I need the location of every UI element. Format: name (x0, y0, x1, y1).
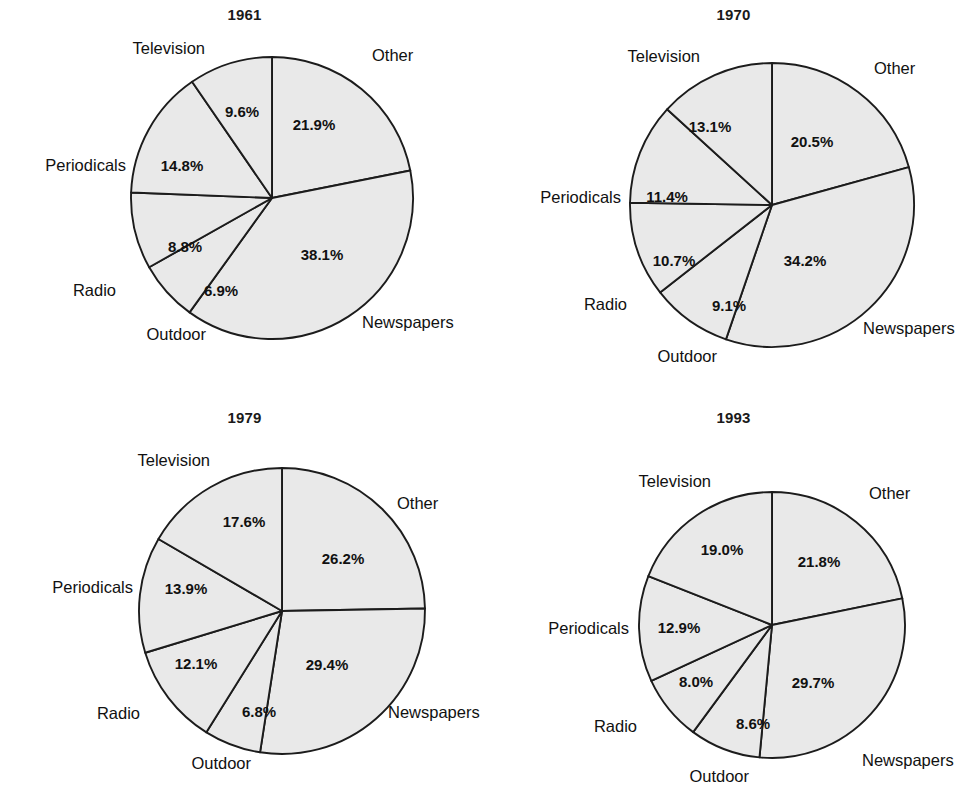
slice-percent-label: 9.6% (225, 103, 259, 120)
pie-chart-panel-1961: 196121.9%38.1%6.9%8.8%14.8%9.6%OtherNews… (0, 0, 489, 403)
slice-percent-label: 8.0% (679, 673, 713, 690)
slice-category-label-periodicals: Periodicals (548, 619, 629, 637)
slice-percent-label: 10.7% (653, 252, 696, 269)
pie-slice-other (282, 468, 425, 611)
slice-percent-label: 13.9% (165, 580, 208, 597)
pie-chart-panel-1993: 199321.8%29.7%8.6%8.0%12.9%19.0%OtherNew… (489, 403, 978, 806)
slice-category-label-newspapers: Newspapers (388, 703, 480, 721)
slice-category-label-other: Other (397, 494, 439, 512)
pie-graphic: 21.8%29.7%8.6%8.0%12.9%19.0%OtherNewspap… (489, 403, 978, 806)
slice-category-label-radio: Radio (97, 704, 140, 722)
slice-category-label-periodicals: Periodicals (52, 578, 133, 596)
pie-graphic: 20.5%34.2%9.1%10.7%11.4%13.1%OtherNewspa… (489, 0, 978, 403)
slice-percent-label: 20.5% (791, 133, 834, 150)
slice-percent-label: 21.8% (798, 553, 841, 570)
slice-category-label-newspapers: Newspapers (862, 751, 954, 769)
slice-percent-label: 26.2% (322, 550, 365, 567)
slice-category-label-radio: Radio (584, 295, 627, 313)
slice-category-label-other: Other (869, 484, 911, 502)
pie-graphic: 21.9%38.1%6.9%8.8%14.8%9.6%OtherNewspape… (0, 0, 489, 403)
slice-category-label-radio: Radio (73, 281, 116, 299)
slice-category-label-newspapers: Newspapers (362, 313, 454, 331)
slice-percent-label: 6.9% (204, 282, 238, 299)
pie-slice-newspapers (260, 608, 425, 754)
slice-category-label-television: Television (639, 472, 711, 490)
slice-category-label-outdoor: Outdoor (689, 767, 749, 785)
slice-category-label-television: Television (138, 451, 210, 469)
slice-percent-label: 34.2% (784, 252, 827, 269)
slice-percent-label: 11.4% (646, 188, 688, 205)
slice-category-label-newspapers: Newspapers (863, 319, 955, 337)
slice-category-label-television: Television (133, 39, 205, 57)
slice-percent-label: 12.9% (658, 619, 701, 636)
slice-percent-label: 38.1% (301, 246, 344, 263)
slice-percent-label: 8.8% (168, 238, 202, 255)
pie-graphic: 26.2%29.4%6.8%12.1%13.9%17.6%OtherNewspa… (0, 403, 489, 806)
pie-chart-panel-1979: 197926.2%29.4%6.8%12.1%13.9%17.6%OtherNe… (0, 403, 489, 806)
slice-percent-label: 29.4% (306, 656, 349, 673)
slice-category-label-radio: Radio (594, 717, 637, 735)
slice-percent-label: 9.1% (712, 297, 746, 314)
pie-chart-figure: 196121.9%38.1%6.9%8.8%14.8%9.6%OtherNews… (0, 0, 978, 806)
slice-percent-label: 17.6% (223, 513, 266, 530)
slice-category-label-television: Television (628, 47, 700, 65)
slice-category-label-other: Other (372, 46, 414, 64)
slice-category-label-periodicals: Periodicals (540, 188, 621, 206)
slice-category-label-outdoor: Outdoor (191, 754, 251, 772)
slice-category-label-periodicals: Periodicals (45, 156, 126, 174)
slice-percent-label: 13.1% (689, 118, 732, 135)
slice-category-label-other: Other (874, 59, 916, 77)
pie-chart-panel-1970: 197020.5%34.2%9.1%10.7%11.4%13.1%OtherNe… (489, 0, 978, 403)
slice-percent-label: 29.7% (792, 674, 835, 691)
slice-percent-label: 8.6% (736, 715, 770, 732)
slice-percent-label: 12.1% (175, 655, 218, 672)
slice-percent-label: 21.9% (293, 116, 336, 133)
slice-percent-label: 14.8% (161, 157, 204, 174)
slice-category-label-outdoor: Outdoor (657, 347, 717, 365)
slice-percent-label: 19.0% (701, 541, 744, 558)
slice-percent-label: 6.8% (242, 703, 276, 720)
slice-category-label-outdoor: Outdoor (146, 325, 206, 343)
